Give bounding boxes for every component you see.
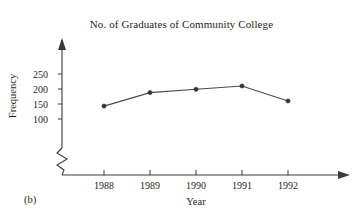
x-tick-label-1988: 1988 bbox=[94, 180, 114, 191]
panel-label: (b) bbox=[24, 194, 36, 205]
chart-figure: No. of Graduates of Community College 25… bbox=[0, 0, 363, 220]
y-tick-label-200: 200 bbox=[16, 84, 48, 95]
data-point-1989 bbox=[148, 91, 152, 95]
x-axis-arrow-icon bbox=[338, 171, 350, 179]
series-markers bbox=[102, 84, 290, 108]
x-tick-label-1990: 1990 bbox=[186, 180, 206, 191]
y-tick-label-150: 150 bbox=[16, 99, 48, 110]
plot-area bbox=[0, 0, 363, 220]
x-tick-label-1989: 1989 bbox=[140, 180, 160, 191]
y-axis-label: Frequency bbox=[7, 74, 18, 118]
data-point-1990 bbox=[194, 87, 198, 91]
data-point-1992 bbox=[286, 99, 290, 103]
y-tick-label-250: 250 bbox=[16, 69, 48, 80]
x-axis-label: Year bbox=[186, 196, 205, 207]
x-tick-label-1992: 1992 bbox=[278, 180, 298, 191]
data-point-1991 bbox=[240, 84, 244, 88]
x-tick-label-1991: 1991 bbox=[232, 180, 252, 191]
y-axis-break-icon bbox=[57, 148, 67, 175]
y-tick-label-100: 100 bbox=[16, 114, 48, 125]
y-axis-arrow-icon bbox=[58, 38, 66, 50]
data-point-1988 bbox=[102, 104, 106, 108]
